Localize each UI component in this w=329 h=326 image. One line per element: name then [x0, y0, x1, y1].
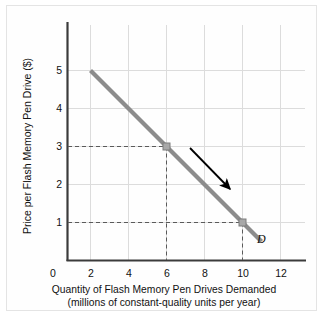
demand-curve-label: D [257, 232, 266, 247]
y-tick-label-5: 5 [46, 64, 62, 76]
y-tick-label-2: 2 [46, 178, 62, 190]
x-axis-title: Quantity of Flash Memory Pen Drives Dema… [14, 283, 314, 309]
x-axis-title-line1: Quantity of Flash Memory Pen Drives Dema… [52, 284, 276, 295]
horizontal-gridlines [67, 71, 305, 223]
y-tick-label-4: 4 [46, 102, 62, 114]
x-tick-label-10: 10 [232, 267, 254, 279]
movement-arrow [190, 148, 230, 189]
y-tick-label-1: 1 [46, 216, 62, 228]
y-tick-label-3: 3 [46, 140, 62, 152]
vertical-gridlines [91, 25, 281, 260]
origin-label: 0 [50, 267, 56, 279]
x-tick-label-2: 2 [80, 267, 102, 279]
marker-point-10-1 [239, 219, 246, 226]
x-tick-label-6: 6 [156, 267, 178, 279]
guide-lines [68, 147, 243, 261]
demand-curve [91, 71, 262, 242]
x-tick-label-4: 4 [118, 267, 140, 279]
x-tick-label-8: 8 [194, 267, 216, 279]
x-axis-title-line2: (millions of constant-quality units per … [14, 296, 314, 309]
y-axis-title: Price per Flash Memory Pen Drive ($) [21, 41, 33, 251]
marker-point-6-3 [163, 143, 170, 150]
x-tick-label-12: 12 [270, 267, 292, 279]
demand-curve-figure: 5 4 3 2 1 0 2 4 6 8 10 12 Price per Flas… [0, 0, 329, 326]
